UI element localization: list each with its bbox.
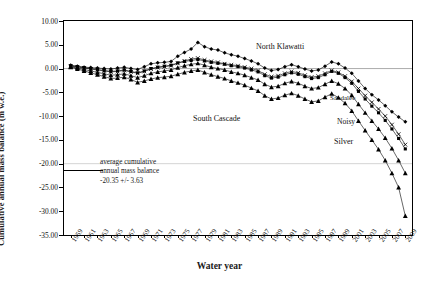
data-point-marker [243,57,247,61]
data-point-marker [223,63,226,66]
data-point-marker [216,48,220,52]
data-point-marker [364,97,367,100]
data-point-marker [257,70,260,73]
data-point-marker [256,62,260,66]
data-point-marker [310,69,314,73]
data-point-marker [396,185,401,189]
data-point-marker [156,61,160,65]
data-point-marker [229,79,234,83]
data-point-marker [383,158,388,162]
data-point-marker [162,60,166,64]
data-point-marker [317,76,320,79]
data-point-marker [142,65,146,69]
data-point-marker [390,127,393,130]
data-point-marker [283,65,287,69]
data-point-marker [310,77,313,80]
data-point-marker [403,120,407,124]
data-point-marker [209,47,213,51]
data-point-marker [403,171,408,175]
data-point-marker [390,123,394,127]
data-point-marker [316,85,321,89]
data-point-marker [242,83,247,87]
data-point-marker [256,89,261,93]
data-point-marker [209,72,214,76]
data-point-marker [109,70,112,73]
series-label-noisy: Noisy [337,117,355,126]
data-point-marker [290,63,294,67]
data-point-marker [163,65,166,68]
data-point-marker [196,58,199,61]
data-point-marker [390,146,395,150]
data-point-marker [344,76,347,79]
data-point-marker [256,78,261,82]
average-annotation: average cumulative annual mass balance -… [100,158,159,186]
data-point-marker [303,84,308,88]
data-point-marker [203,45,207,49]
data-point-marker [303,67,307,71]
data-point-marker [182,50,186,54]
data-point-marker [263,66,267,70]
data-point-marker [404,147,407,150]
data-point-marker [229,53,233,57]
y-tick-label: 10.00 [14,17,58,26]
data-point-marker [329,79,334,83]
data-point-marker [377,111,380,114]
data-point-marker [356,102,361,106]
data-point-marker [263,74,266,77]
data-point-marker [350,82,353,85]
data-point-marker [403,214,408,218]
y-tick-label: 0.00 [14,64,58,73]
data-point-marker [330,60,334,64]
data-point-marker [336,62,340,66]
chart-root: Cumulative annual mass balance (m w.e.) … [0,0,439,282]
data-point-marker [156,66,159,69]
data-point-marker [243,67,246,70]
data-point-marker [129,77,134,81]
series-label-north-klawatti: North Klawatti [256,42,304,51]
data-point-marker [397,132,401,136]
data-point-marker [336,81,341,85]
data-point-marker [370,100,374,104]
data-point-marker [210,61,213,64]
data-point-marker [170,64,173,67]
data-point-marker [249,86,254,90]
data-point-marker [276,96,281,100]
data-point-marker [276,84,281,88]
data-point-marker [276,68,280,72]
series-south-cascade [68,65,407,218]
data-point-marker [149,67,152,70]
data-point-marker [129,70,132,73]
x-axis-title: Water year [0,261,439,271]
data-point-marker [384,119,387,122]
data-point-marker [303,97,308,101]
average-reference-line [63,170,103,171]
data-point-marker [262,82,267,86]
data-point-marker [316,98,321,102]
data-point-marker [269,68,273,72]
data-point-marker [283,73,286,76]
data-point-marker [289,91,294,95]
y-tick-label: -30.00 [14,207,58,216]
data-point-marker [343,86,348,90]
data-point-marker [195,61,200,65]
data-point-marker [270,77,273,80]
data-point-marker [216,62,219,65]
data-point-marker [136,68,140,72]
data-point-marker [323,95,328,99]
data-point-marker [383,114,387,118]
data-point-marker [370,105,373,108]
data-point-marker [296,93,301,97]
data-point-marker [250,68,253,71]
plot-svg [64,21,412,235]
y-axis-title: Cumulative annual mass balance (m w.e.) [0,92,6,246]
data-point-marker [290,71,293,74]
series-label-sandalee: Sandalee [330,94,355,102]
data-point-marker [363,94,367,98]
annotation-line-3: -20.35 +/- 3.63 [100,177,159,186]
data-point-marker [390,171,395,175]
data-point-marker [377,107,381,111]
data-point-marker [143,69,146,72]
y-tick-label: -10.00 [14,112,58,121]
data-point-marker [376,147,381,151]
data-point-marker [116,69,119,72]
